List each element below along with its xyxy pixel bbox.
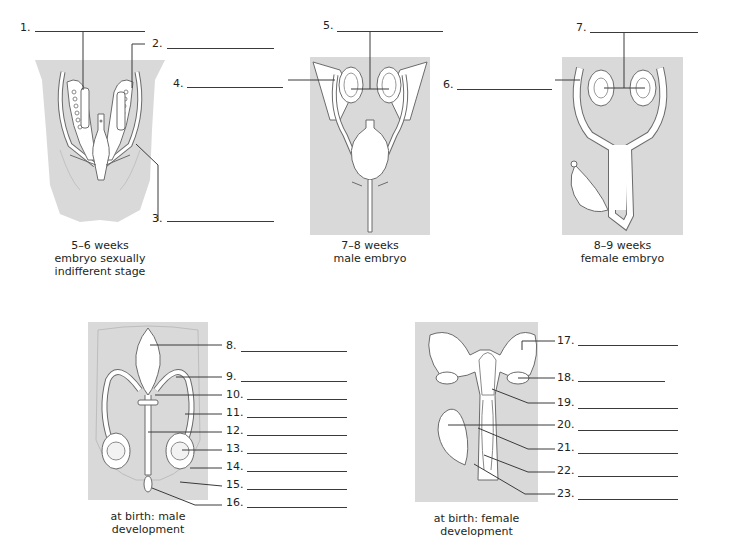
- caption-male-birth: at birth: male development: [88, 510, 208, 536]
- label-number-4: 4.: [173, 78, 184, 90]
- answer-blank-7[interactable]: [590, 32, 698, 33]
- caption-line: development: [415, 525, 538, 538]
- label-number-5: 5.: [323, 20, 334, 32]
- label-number-19: 19.: [557, 397, 575, 409]
- answer-blank-9[interactable]: [241, 381, 347, 382]
- label-number-7: 7.: [576, 22, 587, 34]
- caption-indifferent-stage: 5–6 weeks embryo sexually indifferent st…: [40, 239, 160, 278]
- label-number-8: 8.: [226, 340, 237, 352]
- answer-blank-18[interactable]: [578, 381, 665, 382]
- caption-female-embryo: 8–9 weeks female embryo: [562, 239, 683, 265]
- answer-blank-17[interactable]: [578, 345, 678, 346]
- answer-blank-20[interactable]: [578, 430, 678, 431]
- panel-male-birth-drawing: [88, 322, 208, 500]
- answer-blank-4[interactable]: [187, 87, 283, 88]
- label-number-23: 23.: [557, 488, 575, 500]
- label-number-13: 13.: [226, 443, 244, 455]
- caption-line: 8–9 weeks: [562, 239, 683, 252]
- label-number-17: 17.: [557, 335, 575, 347]
- panel-female-embryo-drawing: [562, 57, 683, 235]
- answer-blank-22[interactable]: [578, 476, 678, 477]
- label-number-12: 12.: [226, 425, 244, 437]
- answer-blank-23[interactable]: [578, 499, 678, 500]
- label-number-3: 3.: [152, 213, 163, 225]
- label-number-16: 16.: [226, 497, 244, 509]
- caption-line: at birth: female: [415, 512, 538, 525]
- label-number-21: 21.: [557, 442, 575, 454]
- label-number-1: 1.: [20, 22, 31, 34]
- caption-line: development: [88, 523, 208, 536]
- caption-line: male embryo: [310, 252, 430, 265]
- label-number-6: 6.: [443, 79, 454, 91]
- answer-blank-19[interactable]: [578, 408, 678, 409]
- answer-blank-12[interactable]: [247, 435, 347, 436]
- label-number-22: 22.: [557, 465, 575, 477]
- label-number-2: 2.: [152, 38, 163, 50]
- caption-line: embryo sexually: [40, 252, 160, 265]
- answer-blank-16[interactable]: [247, 507, 347, 508]
- label-number-14: 14.: [226, 461, 244, 473]
- caption-male-embryo: 7–8 weeks male embryo: [310, 239, 430, 265]
- answer-blank-10[interactable]: [247, 399, 347, 400]
- caption-line: indifferent stage: [40, 265, 160, 278]
- answer-blank-11[interactable]: [247, 417, 347, 418]
- panel-female-birth-drawing: [415, 322, 538, 502]
- answer-blank-6[interactable]: [457, 89, 552, 90]
- caption-line: at birth: male: [88, 510, 208, 523]
- label-number-15: 15.: [226, 479, 244, 491]
- answer-blank-1[interactable]: [35, 31, 145, 32]
- answer-blank-21[interactable]: [578, 453, 678, 454]
- caption-line: female embryo: [562, 252, 683, 265]
- answer-blank-5[interactable]: [337, 31, 443, 32]
- label-number-10: 10.: [226, 389, 244, 401]
- answer-blank-14[interactable]: [247, 471, 347, 472]
- caption-line: 7–8 weeks: [310, 239, 430, 252]
- answer-blank-13[interactable]: [247, 453, 347, 454]
- label-number-20: 20.: [557, 419, 575, 431]
- panel-indifferent-stage-drawing: [35, 60, 165, 222]
- label-number-18: 18.: [557, 372, 575, 384]
- answer-blank-15[interactable]: [247, 489, 347, 490]
- answer-blank-3[interactable]: [167, 221, 274, 222]
- answer-blank-2[interactable]: [167, 48, 274, 49]
- caption-line: 5–6 weeks: [40, 239, 160, 252]
- label-number-11: 11.: [226, 407, 244, 419]
- caption-female-birth: at birth: female development: [415, 512, 538, 538]
- answer-blank-8[interactable]: [241, 351, 347, 352]
- label-number-9: 9.: [226, 371, 237, 383]
